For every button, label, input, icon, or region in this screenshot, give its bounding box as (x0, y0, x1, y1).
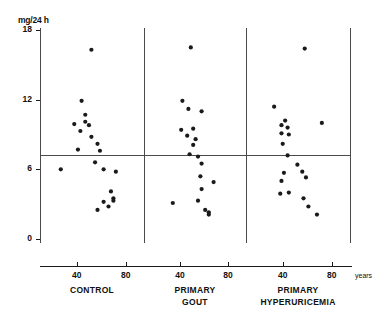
data-point (102, 200, 106, 204)
x-tick-label: 40 (271, 270, 295, 280)
data-point (304, 175, 308, 179)
data-point (114, 170, 118, 174)
x-tick-label: 80 (320, 270, 344, 280)
data-point (78, 129, 82, 133)
panel-group-label: HYPERURICEMIA (228, 297, 368, 307)
data-point (89, 48, 93, 52)
data-point (89, 135, 93, 139)
data-point (95, 208, 99, 212)
data-point (180, 99, 184, 103)
y-tick-label: 12 (10, 94, 32, 104)
data-point (194, 137, 198, 141)
data-point (87, 123, 91, 127)
data-points-layer (59, 45, 324, 216)
data-point (286, 125, 290, 129)
data-point (303, 46, 307, 50)
data-point (279, 123, 283, 127)
plot-canvas (0, 0, 386, 314)
data-point (83, 113, 87, 117)
y-tick-label: 18 (10, 24, 32, 34)
data-point (72, 122, 76, 126)
scatter-plot-figure: mg/24 h years 0612184080CONTROL4080PRIMA… (0, 0, 386, 314)
x-tick-label: 40 (65, 270, 89, 280)
data-point (301, 196, 305, 200)
data-point (286, 153, 290, 157)
x-tick-label: 80 (114, 270, 138, 280)
y-tick-label: 6 (10, 163, 32, 173)
data-point (191, 127, 195, 131)
data-point (93, 160, 97, 164)
data-point (306, 204, 310, 208)
data-point (198, 174, 202, 178)
data-point (200, 109, 204, 113)
data-point (283, 118, 287, 122)
data-point (300, 170, 304, 174)
data-point (191, 143, 195, 147)
data-point (98, 149, 102, 153)
data-point (320, 121, 324, 125)
data-point (203, 208, 207, 212)
axis-layer (36, 28, 352, 267)
data-point (83, 120, 87, 124)
data-point (189, 45, 193, 49)
data-point (186, 107, 190, 111)
data-point (279, 179, 283, 183)
data-point (200, 187, 204, 191)
data-point (282, 171, 286, 175)
data-point (196, 199, 200, 203)
data-point (179, 128, 183, 132)
data-point (76, 147, 80, 151)
data-point (185, 134, 189, 138)
x-tick-label: 40 (168, 270, 192, 280)
data-point (315, 213, 319, 217)
data-point (279, 131, 283, 135)
data-point (278, 192, 282, 196)
y-tick-label: 0 (10, 233, 32, 243)
data-point (207, 213, 211, 217)
data-point (281, 142, 285, 146)
data-point (109, 189, 113, 193)
data-point (80, 99, 84, 103)
data-point (106, 204, 110, 208)
data-point (287, 190, 291, 194)
data-point (287, 132, 291, 136)
panel-group-label: PRIMARY (228, 285, 368, 295)
data-point (272, 105, 276, 109)
data-point (95, 142, 99, 146)
data-point (111, 199, 115, 203)
x-tick-label: 80 (216, 270, 240, 280)
data-point (188, 152, 192, 156)
data-point (295, 163, 299, 167)
data-point (200, 161, 204, 165)
data-point (171, 201, 175, 205)
data-point (102, 167, 106, 171)
data-point (196, 154, 200, 158)
data-point (59, 167, 63, 171)
data-point (212, 180, 216, 184)
